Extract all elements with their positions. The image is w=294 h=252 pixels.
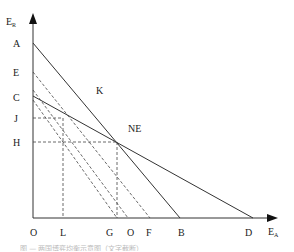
x-tick-o2: O <box>127 227 134 238</box>
y-axis-arrow-icon <box>29 13 37 24</box>
y-tick-j: J <box>14 113 18 124</box>
y-tick-a: A <box>13 38 21 49</box>
dashed-line-c-o <box>33 90 128 218</box>
y-axis-label: ER <box>6 16 16 28</box>
x-axis-label: EA <box>268 226 279 238</box>
line-c-d <box>33 96 253 218</box>
y-tick-c: C <box>13 92 20 103</box>
x-tick-f: F <box>146 227 152 238</box>
x-axis-arrow-icon <box>267 214 278 222</box>
dashed-line-e-f <box>33 72 150 218</box>
x-tick-g: G <box>106 227 113 238</box>
x-tick-origin: O <box>30 227 37 238</box>
figure-caption: 图 — 两国博弈均衡示意图（文字截断） <box>20 243 290 251</box>
label-ne: NE <box>128 123 141 134</box>
y-tick-h: H <box>13 137 20 148</box>
label-k: K <box>96 85 104 96</box>
x-tick-b: B <box>178 227 185 238</box>
diagram-canvas: ER EA A E C J H O L G O F B D K NE <box>0 0 294 252</box>
y-tick-e: E <box>13 67 19 78</box>
x-tick-l: L <box>60 227 66 238</box>
x-tick-d: D <box>245 227 252 238</box>
